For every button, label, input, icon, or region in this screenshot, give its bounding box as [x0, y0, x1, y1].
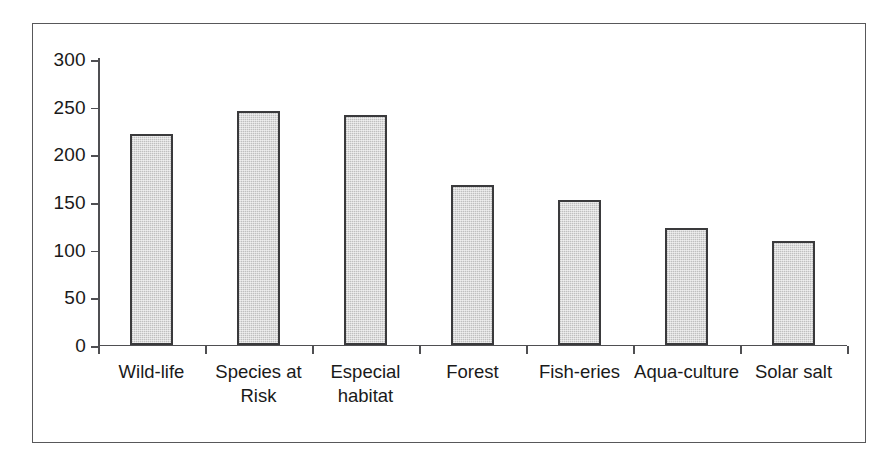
x-tick-mark	[205, 346, 207, 354]
category-label: Fish-eries	[520, 360, 640, 384]
y-tick-label: 100	[53, 240, 86, 262]
bar	[772, 241, 815, 345]
x-tick-mark	[633, 346, 635, 354]
category-label: Species at Risk	[199, 360, 319, 408]
x-tick-mark	[419, 346, 421, 354]
x-tick-mark	[312, 346, 314, 354]
y-tick-mark	[91, 298, 98, 300]
y-tick-label: 250	[53, 97, 86, 119]
y-tick-mark	[91, 155, 98, 157]
bar	[558, 200, 601, 345]
y-axis-line	[98, 58, 100, 346]
y-tick-label: 200	[53, 144, 86, 166]
bar	[344, 115, 387, 345]
y-tick-label: 300	[53, 49, 86, 71]
y-tick-mark	[91, 108, 98, 110]
category-label: Aqua-culture	[627, 360, 747, 384]
chart-frame: 050100150200250300 Wild-lifeSpecies at R…	[32, 23, 866, 443]
category-label: Solar salt	[734, 360, 854, 384]
plot-area: 050100150200250300 Wild-lifeSpecies at R…	[98, 60, 847, 346]
x-axis-line	[98, 345, 847, 347]
y-tick-mark	[91, 251, 98, 253]
y-tick-label: 0	[75, 335, 86, 357]
y-tick-mark	[91, 60, 98, 62]
x-tick-mark	[98, 346, 100, 354]
bar	[451, 185, 494, 344]
bar	[665, 228, 708, 344]
y-tick-label: 150	[53, 192, 86, 214]
y-tick-mark	[91, 346, 98, 348]
x-tick-mark	[526, 346, 528, 354]
y-tick-label: 50	[64, 287, 86, 309]
bar	[237, 111, 280, 345]
y-tick-mark	[91, 203, 98, 205]
category-label: Especial habitat	[306, 360, 426, 408]
bar	[130, 134, 173, 345]
x-tick-mark	[740, 346, 742, 354]
category-label: Forest	[413, 360, 533, 384]
category-label: Wild-life	[92, 360, 212, 384]
x-tick-mark	[847, 346, 849, 354]
